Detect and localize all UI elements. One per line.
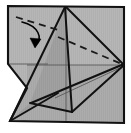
origami-diagram-figure: Origami fold step diagram: [0, 0, 131, 133]
origami-illustration: [0, 0, 131, 133]
